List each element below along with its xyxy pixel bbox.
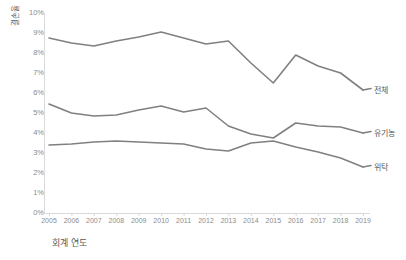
x-axis-title: 회계 연도: [52, 236, 87, 249]
series-label-0: 전체: [374, 84, 388, 95]
series-label-leader: [363, 89, 371, 91]
series-label-leader: [363, 166, 371, 168]
series-line: [49, 104, 363, 138]
line-chart: 결손율 0%1%2%3%4%5%6%7%8%9%10% 200520062007…: [0, 0, 406, 260]
series-line: [49, 141, 363, 167]
series-label-1: 유기농: [374, 127, 395, 138]
series-label-leaders: [363, 89, 371, 168]
series-label-leader: [363, 132, 371, 134]
series-line: [49, 32, 363, 90]
x-tick-label: 2019: [350, 217, 376, 225]
series-label-2: 위탁: [374, 161, 388, 172]
series-lines: [49, 32, 363, 167]
y-tick-marks: [41, 14, 45, 214]
